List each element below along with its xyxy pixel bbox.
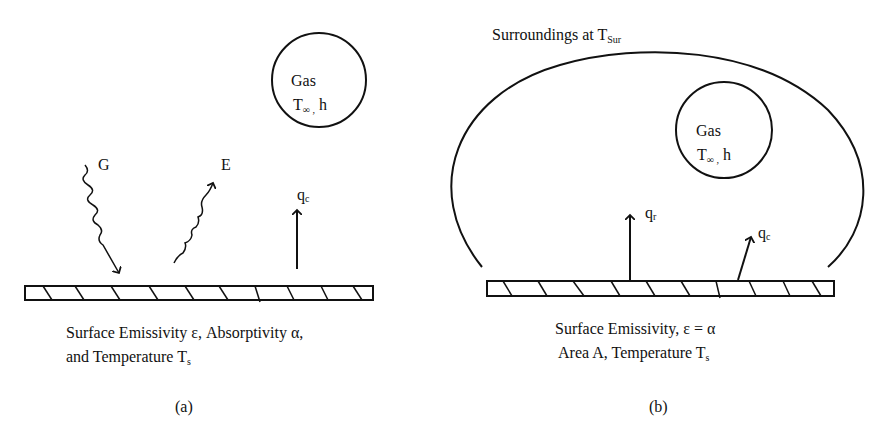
- gas-circle-b: [676, 82, 772, 178]
- gas-params-b: T∞ , h: [697, 146, 731, 165]
- irradiation-label: G: [98, 156, 110, 173]
- diagram-canvas: Gas T∞ , h G E qc Surface Emissivity ε, …: [0, 0, 884, 441]
- caption-a-line2: and Temperature Ts: [66, 348, 191, 367]
- surroundings-enclosure: [451, 52, 863, 267]
- panel-label-b: (b): [649, 398, 668, 416]
- gas-label-a: Gas: [291, 72, 316, 89]
- emission-label: E: [221, 156, 231, 173]
- convection-label-a: qc: [297, 186, 310, 204]
- gas-label-b: Gas: [696, 122, 721, 139]
- surroundings-label: Surroundings at TSur: [492, 26, 622, 45]
- caption-b-line2: Area A, Temperature Ts: [558, 344, 710, 363]
- convection-label-b: qc: [758, 224, 771, 242]
- panel-label-a: (a): [175, 398, 193, 416]
- caption-b-line1: Surface Emissivity, ε = α: [555, 320, 716, 338]
- panel-a: Gas T∞ , h G E qc Surface Emissivity ε, …: [25, 33, 373, 416]
- caption-a-line1: Surface Emissivity ε, Absorptivity α,: [66, 324, 303, 342]
- convection-arrow-b: [738, 237, 751, 280]
- irradiation-arrow: [83, 165, 119, 273]
- panel-b: Surroundings at TSur Gas T∞ , h qr qc Su…: [451, 26, 863, 416]
- radiation-label: qr: [645, 204, 657, 222]
- emission-arrow: [174, 183, 213, 263]
- gas-params-a: T∞ , h: [293, 96, 327, 115]
